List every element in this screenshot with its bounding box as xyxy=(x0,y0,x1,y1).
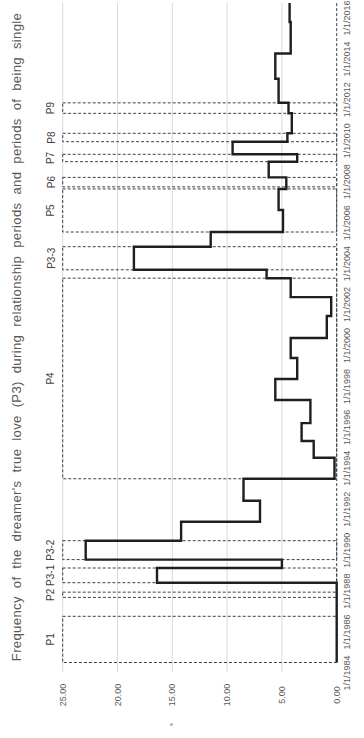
date-tick-label: 1/1/1994 xyxy=(342,451,352,486)
date-tick-label: 1/1/2000 xyxy=(342,328,352,363)
date-tick-label: 1/1/2016 xyxy=(342,0,352,35)
date-tick-label: 1/1/2010 xyxy=(342,123,352,158)
value-tick-label: 20.00 xyxy=(113,684,123,707)
date-tick-label: 1/1/1996 xyxy=(342,410,352,445)
date-tick-label: 1/1/1990 xyxy=(342,533,352,568)
period-label-p6: P6 xyxy=(46,176,57,189)
period-label-p3-3: P3-3 xyxy=(46,247,57,269)
period-box-p6 xyxy=(63,177,337,186)
stray-dot-artifact xyxy=(170,723,173,726)
period-box-p8 xyxy=(63,133,337,141)
frequency-step-line xyxy=(86,3,337,662)
chart-title: Frequency of the dreamer's true love (P3… xyxy=(9,13,24,661)
date-tick-label: 1/1/1992 xyxy=(342,492,352,527)
period-box-p1 xyxy=(63,616,337,662)
period-label-p4: P4 xyxy=(46,372,57,385)
value-tick-label: 10.00 xyxy=(222,684,232,707)
axis-label-layer: P1P2P3-1P3-2P4P3-3P5P6P7P8P925.0020.0015… xyxy=(46,0,353,706)
period-box-p9 xyxy=(63,103,337,114)
period-label-p3-2: P3-2 xyxy=(46,539,57,561)
date-tick-label: 1/1/2008 xyxy=(342,164,352,199)
period-label-p1: P1 xyxy=(46,633,57,646)
period-box-p5 xyxy=(63,189,337,232)
date-tick-label: 1/1/1988 xyxy=(342,574,352,609)
period-label-p2: P2 xyxy=(46,588,57,601)
period-label-p8: P8 xyxy=(46,131,57,144)
date-tick-label: 1/1/1984 xyxy=(342,655,352,690)
value-tick-label: 25.00 xyxy=(58,684,68,707)
period-label-p7: P7 xyxy=(46,151,57,164)
period-box-p3-3 xyxy=(63,247,337,270)
date-tick-label: 1/1/2004 xyxy=(342,246,352,281)
value-tick-label: 15.00 xyxy=(167,684,177,707)
date-tick-label: 1/1/2014 xyxy=(342,41,352,76)
period-box-p2 xyxy=(63,592,337,597)
series-layer xyxy=(86,3,337,662)
date-tick-label: 1/1/2002 xyxy=(342,287,352,322)
rotated-step-chart: P1P2P3-1P3-2P4P3-3P5P6P7P8P925.0020.0015… xyxy=(0,0,364,738)
date-tick-label: 1/1/2006 xyxy=(342,205,352,240)
period-box-p3-2 xyxy=(63,541,337,560)
period-box-layer xyxy=(63,103,337,663)
value-tick-label: 0.00 xyxy=(332,686,342,704)
date-tick-label: 1/1/1998 xyxy=(342,369,352,404)
chart-page: P1P2P3-1P3-2P4P3-3P5P6P7P8P925.0020.0015… xyxy=(0,0,364,738)
period-box-p3-1 xyxy=(63,568,337,583)
period-label-p3-1: P3-1 xyxy=(46,564,57,586)
value-tick-label: 5.00 xyxy=(277,686,287,704)
date-tick-label: 1/1/2012 xyxy=(342,82,352,117)
period-label-p9: P9 xyxy=(46,102,57,115)
date-tick-label: 1/1/1986 xyxy=(342,615,352,650)
period-label-p5: P5 xyxy=(46,204,57,217)
